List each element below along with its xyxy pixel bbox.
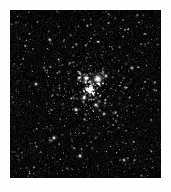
image-canvas-root (0, 0, 171, 192)
star-field-canvas (10, 10, 161, 178)
star-cluster-image-frame (10, 10, 161, 178)
